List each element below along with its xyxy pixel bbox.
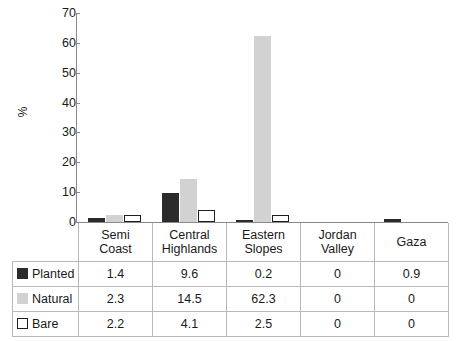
table-cell: 2.3 [79,287,153,312]
category-label-line2: Valley [301,242,374,256]
legend-label: Bare [32,317,58,331]
bar-bare [272,215,289,222]
category-label-line2: Highlands [153,242,226,256]
table-cell: 14.5 [153,287,227,312]
y-tick-label: 70 [42,7,76,19]
category-label-line2: Slopes [227,242,300,256]
legend-label: Planted [32,267,74,281]
bar-group [77,13,151,222]
table-cell: 0 [301,312,375,337]
category-label-line1: Central [153,228,226,242]
table-cell: 0.9 [375,262,449,287]
plot-area: % 706050403020100 [0,0,456,224]
legend-item-natural: Natural [13,287,79,312]
legend-swatch-icon [17,293,28,304]
legend-swatch-icon [17,268,28,279]
y-tick-label: 50 [42,67,76,79]
y-tick-label: 30 [42,126,76,138]
y-tick-label: 10 [42,186,76,198]
table-cell: 0 [375,312,449,337]
table-cell: 1.4 [79,262,153,287]
bar-planted [88,218,105,222]
table-cell: 0 [375,287,449,312]
table-header-row: SemiCoastCentralHighlandsEasternSlopesJo… [13,223,449,262]
chart-figure: % 706050403020100 SemiCoastCentralHighla… [0,0,456,341]
y-tick-label-wrap: 60 [36,37,76,49]
y-tick-label-wrap: 30 [36,126,76,138]
table-cell: 62.3 [227,287,301,312]
category-label-line1: Semi [79,228,152,242]
y-tick-label-wrap: 50 [36,67,76,79]
y-tick-label-wrap: 40 [36,97,76,109]
y-tick-label-wrap: 20 [36,156,76,168]
bar-bare [198,210,215,222]
bars-layer [77,13,448,222]
table-cell: 0.2 [227,262,301,287]
y-tick-label: 40 [42,97,76,109]
category-label-line1: Jordan [301,228,374,242]
category-label-line1: Eastern [227,228,300,242]
bar-natural [106,215,123,222]
table-corner-cell [13,223,79,262]
y-axis-label: % [11,102,35,122]
legend-label: Natural [32,292,72,306]
bar-group [300,13,374,222]
table-row: Planted1.49.60.200.9 [13,262,449,287]
legend-swatch-icon [17,318,28,329]
y-tick-label: 60 [42,37,76,49]
table-cell: 0 [301,262,375,287]
table-cell: 2.2 [79,312,153,337]
data-table: SemiCoastCentralHighlandsEasternSlopesJo… [12,223,449,337]
category-label-line1: Gaza [375,235,448,249]
bar-planted [236,220,253,222]
table-cell: 4.1 [153,312,227,337]
y-tick-label-wrap: 70 [36,7,76,19]
legend-item-planted: Planted [13,262,79,287]
bar-natural [180,179,197,222]
table-row: Bare2.24.12.500 [13,312,449,337]
table-cell: 0 [301,287,375,312]
table-header-cell: JordanValley [301,223,375,262]
bar-group [151,13,225,222]
table-header-cell: SemiCoast [79,223,153,262]
table-row: Natural2.314.562.300 [13,287,449,312]
bar-natural [254,36,271,222]
bar-group [374,13,448,222]
legend-item-bare: Bare [13,312,79,337]
bar-planted [162,193,179,222]
bar-group [225,13,299,222]
bar-planted [384,219,401,222]
table-header-cell: Gaza [375,223,449,262]
table-cell: 9.6 [153,262,227,287]
table-cell: 2.5 [227,312,301,337]
y-tick-label: 20 [42,156,76,168]
y-tick-label-wrap: 10 [36,186,76,198]
table-header-cell: CentralHighlands [153,223,227,262]
category-label-line2: Coast [79,242,152,256]
table-header-cell: EasternSlopes [227,223,301,262]
bar-bare [124,215,141,222]
